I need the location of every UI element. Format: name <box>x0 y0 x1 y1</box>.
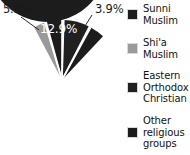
leader-line-3-9 <box>85 15 92 26</box>
pie-label-5-3-percent: 5.3% <box>3 2 31 16</box>
pie-chart-figure: 5.3% 12.9% 77.9% 3.9% Sunni Muslim Shi'a… <box>0 0 190 155</box>
legend-item-eastern-orthodox-christian[interactable]: Eastern Orthodox Christian <box>127 70 189 105</box>
pie-label-3-9-percent: 3.9% <box>95 2 123 16</box>
legend-item-other-religious-groups[interactable]: Other religious groups <box>127 115 185 150</box>
legend-item-shia-muslim[interactable]: Shi'a Muslim <box>127 37 178 60</box>
legend-swatch-eastern-orthodox-christian <box>127 82 138 93</box>
chart-legend: Sunni Muslim Shi'a Muslim Eastern Orthod… <box>127 0 190 155</box>
legend-label-other-religious-groups: Other religious groups <box>143 115 185 150</box>
legend-item-sunni-muslim[interactable]: Sunni Muslim <box>127 3 178 26</box>
pie-label-77-9-percent: 77.9% <box>39 93 76 107</box>
pie-chart-plot-area: 5.3% 12.9% 77.9% <box>0 0 126 155</box>
legend-label-shia-muslim: Shi'a Muslim <box>143 37 178 60</box>
legend-swatch-shia-muslim <box>127 43 138 54</box>
legend-label-sunni-muslim: Sunni Muslim <box>143 3 178 26</box>
legend-swatch-sunni-muslim <box>127 9 138 20</box>
legend-label-eastern-orthodox-christian: Eastern Orthodox Christian <box>143 70 189 105</box>
pie-label-12-9-percent: 12.9% <box>40 22 77 36</box>
legend-swatch-other-religious-groups <box>127 127 138 138</box>
